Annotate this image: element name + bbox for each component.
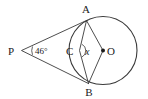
center-point-dot-o [101, 49, 105, 53]
geometry-canvas: P A B C O 46° x [0, 0, 148, 99]
label-point-a: A [82, 3, 90, 15]
label-point-p: P [8, 45, 14, 57]
label-angle-p: 46° [35, 46, 48, 56]
label-angle-x: x [84, 46, 90, 57]
label-point-o: O [107, 45, 115, 57]
label-point-b: B [85, 86, 92, 98]
label-point-c: C [66, 45, 73, 57]
angle-mark-p-arc [32, 47, 33, 55]
segment-pa-tangent [22, 20, 88, 51]
geometry-figure: P A B C O 46° x [0, 0, 148, 99]
segment-bo-radius [89, 51, 104, 84]
segment-pb-tangent [22, 51, 90, 84]
